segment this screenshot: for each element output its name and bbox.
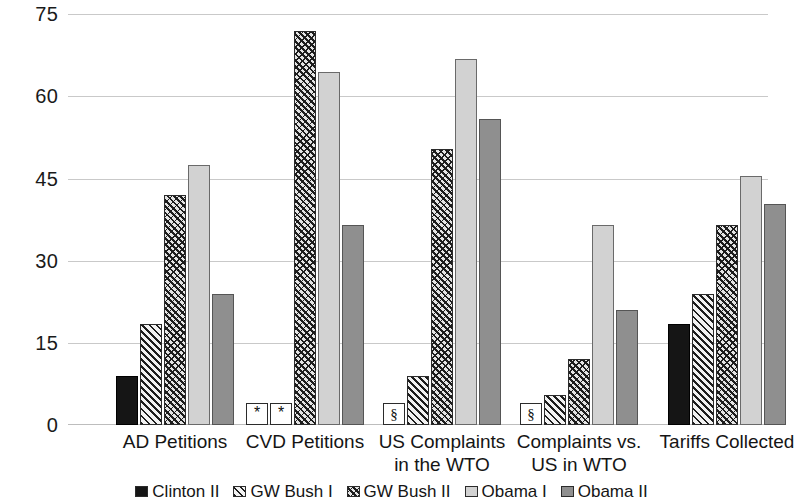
bar <box>668 324 690 425</box>
bar <box>342 225 364 425</box>
bar <box>544 395 566 425</box>
y-axis: 75 60 45 30 15 0 <box>0 14 58 425</box>
x-axis-category-label-line: Tariffs Collected <box>637 430 798 453</box>
y-tick-label: 45 <box>2 169 58 189</box>
no-data-asterisk-marker: * <box>270 403 292 425</box>
legend-label: Obama I <box>482 482 547 501</box>
x-axis-labels: AD PetitionsCVD PetitionsUS Complaintsin… <box>68 430 768 478</box>
legend-label: GW Bush I <box>250 482 332 501</box>
x-axis-category-label-line: US in WTO <box>489 453 669 476</box>
y-tick-label: 0 <box>2 415 58 435</box>
bar <box>116 376 138 425</box>
no-data-asterisk-marker: * <box>246 403 268 425</box>
bar-group: ** <box>246 14 364 425</box>
bar-group <box>116 14 234 425</box>
legend-item[interactable]: Obama II <box>561 482 648 501</box>
bar <box>164 195 186 425</box>
bar-group: § <box>383 14 501 425</box>
bar <box>431 149 453 425</box>
bar <box>407 376 429 425</box>
y-tick-label: 15 <box>2 333 58 353</box>
y-tick-label: 75 <box>2 4 58 24</box>
legend-label: GW Bush II <box>364 482 451 501</box>
plot-area: **§§ <box>68 14 768 425</box>
legend-swatch-icon <box>233 486 246 497</box>
bar <box>616 310 638 425</box>
bar <box>479 119 501 425</box>
y-tick-label: 60 <box>2 86 58 106</box>
legend-swatch-icon <box>465 486 478 497</box>
bar <box>568 359 590 425</box>
bar <box>716 225 738 425</box>
legend-label: Clinton II <box>152 482 219 501</box>
bar-group <box>668 14 786 425</box>
legend-item[interactable]: Obama I <box>465 482 547 501</box>
bar <box>318 72 340 425</box>
legend-label: Obama II <box>578 482 648 501</box>
no-data-section-marker: § <box>383 403 405 425</box>
bar <box>764 204 786 425</box>
chart-legend: Clinton IIGW Bush IGW Bush IIObama IObam… <box>0 482 783 501</box>
legend-swatch-icon <box>561 486 574 497</box>
bar-group: § <box>520 14 638 425</box>
legend-item[interactable]: GW Bush II <box>347 482 451 501</box>
legend-swatch-icon <box>347 486 360 497</box>
bar <box>692 294 714 425</box>
legend-item[interactable]: Clinton II <box>135 482 219 501</box>
bar <box>140 324 162 425</box>
bar-groups: **§§ <box>68 14 768 425</box>
bar <box>188 165 210 425</box>
bar <box>592 225 614 425</box>
legend-swatch-icon <box>135 486 148 497</box>
bar <box>455 59 477 425</box>
bar <box>294 31 316 425</box>
bar <box>740 176 762 425</box>
legend-item[interactable]: GW Bush I <box>233 482 332 501</box>
bar <box>212 294 234 425</box>
y-tick-label: 30 <box>2 251 58 271</box>
no-data-section-marker: § <box>520 403 542 425</box>
x-axis-category-label: Tariffs Collected <box>637 430 798 453</box>
